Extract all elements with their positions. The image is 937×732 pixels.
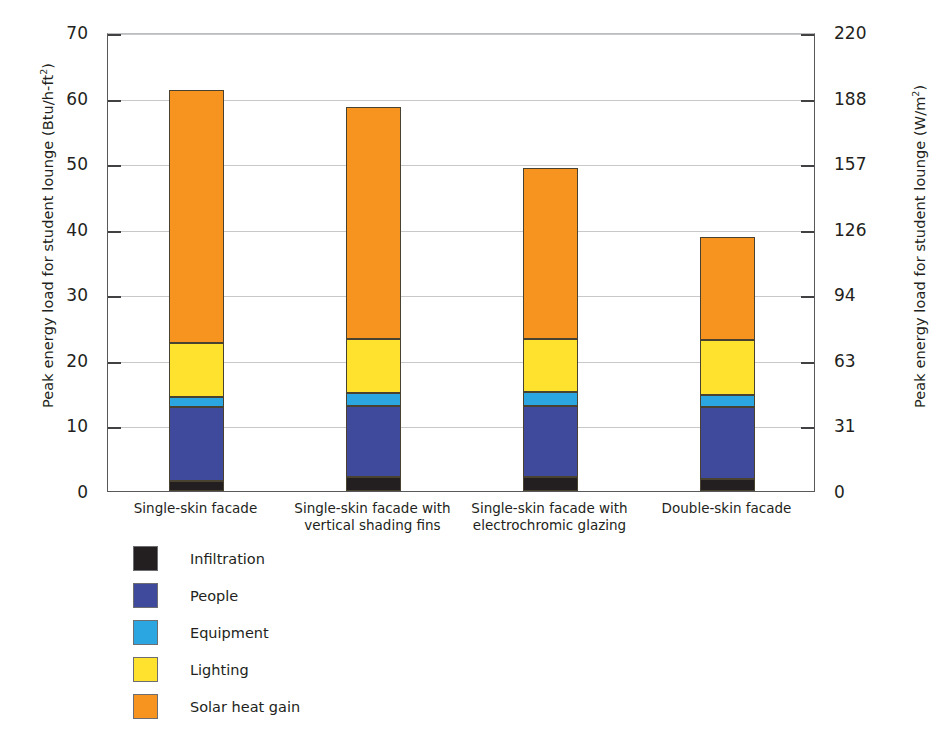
y-tick-label-left: 60 — [66, 91, 88, 108]
y-tick-label-right: 188 — [834, 91, 866, 108]
y-tick-label-right: 63 — [834, 353, 856, 370]
bar-segment-equipment[interactable] — [346, 393, 401, 405]
x-category-label-line: Single-skin facade — [107, 500, 284, 517]
legend-swatch-icon — [133, 694, 158, 719]
y-tick-label-left: 10 — [66, 418, 88, 435]
legend-item[interactable]: Lighting — [133, 651, 300, 688]
y-tick-label-left: 30 — [66, 287, 88, 304]
bar-segment-solar-heat-gain[interactable] — [169, 90, 224, 342]
plot-area: 010203040506070 0316394126157188220 — [107, 33, 815, 492]
y-axis-title-left-sup: 2 — [38, 69, 49, 75]
bar-segment-lighting[interactable] — [700, 340, 755, 395]
x-category-label-line: Double-skin facade — [638, 500, 815, 517]
bar-segment-infiltration[interactable] — [169, 481, 224, 491]
stacked-bar[interactable] — [523, 168, 578, 491]
y-axis-title-left: Peak energy load for student lounge (Btu… — [40, 63, 56, 408]
bar-group[interactable] — [700, 34, 755, 491]
x-category-label-line: vertical shading fins — [284, 517, 461, 534]
stacked-bar[interactable] — [700, 237, 755, 491]
legend-label: People — [190, 588, 238, 604]
legend-item[interactable]: Equipment — [133, 614, 300, 651]
stacked-bar[interactable] — [346, 107, 401, 491]
legend-swatch-icon — [133, 546, 158, 571]
y-tick-label-left: 40 — [66, 222, 88, 239]
legend-label: Solar heat gain — [190, 699, 300, 715]
y-tick-label-right: 94 — [834, 287, 856, 304]
bar-group[interactable] — [346, 34, 401, 491]
x-category-label-line: Single-skin facade with — [284, 500, 461, 517]
bar-segment-solar-heat-gain[interactable] — [700, 237, 755, 340]
bar-segment-solar-heat-gain[interactable] — [346, 107, 401, 338]
bar-segment-infiltration[interactable] — [346, 477, 401, 491]
y-axis-title-right: Peak energy load for student lounge (W/m… — [912, 85, 928, 408]
bar-series-container — [108, 34, 814, 491]
x-category-label: Single-skin facade — [107, 500, 284, 517]
bar-segment-infiltration[interactable] — [523, 477, 578, 491]
legend-label: Infiltration — [190, 551, 265, 567]
bar-segment-equipment[interactable] — [700, 395, 755, 407]
y-axis-title-right-sup: 2 — [910, 90, 921, 96]
bar-segment-solar-heat-gain[interactable] — [523, 168, 578, 338]
legend-label: Lighting — [190, 662, 249, 678]
y-tick-label-left: 50 — [66, 156, 88, 173]
bar-segment-lighting[interactable] — [346, 339, 401, 393]
bar-segment-equipment[interactable] — [523, 392, 578, 406]
y-tick-label-right: 157 — [834, 156, 866, 173]
y-tick-label-left: 0 — [77, 484, 88, 501]
x-category-label-line: electrochromic glazing — [461, 517, 638, 534]
legend-item[interactable]: Solar heat gain — [133, 688, 300, 725]
bar-segment-people[interactable] — [523, 406, 578, 477]
bar-segment-lighting[interactable] — [169, 343, 224, 397]
y-tick-label-right: 126 — [834, 222, 866, 239]
bar-segment-people[interactable] — [346, 406, 401, 477]
y-axis-title-right-text: Peak energy load for student lounge (W/m — [912, 97, 928, 408]
legend-label: Equipment — [190, 625, 269, 641]
y-tick-label-right: 0 — [834, 484, 845, 501]
legend-item[interactable]: Infiltration — [133, 540, 300, 577]
legend-swatch-icon — [133, 620, 158, 645]
bar-segment-equipment[interactable] — [169, 397, 224, 407]
y-axis-title-left-text: Peak energy load for student lounge (Btu… — [40, 75, 56, 408]
chart-figure: Peak energy load for student lounge (Btu… — [0, 0, 937, 732]
y-tick-label-right: 220 — [834, 25, 866, 42]
y-tick-label-left: 20 — [66, 353, 88, 370]
bar-group[interactable] — [169, 34, 224, 491]
bar-segment-infiltration[interactable] — [700, 479, 755, 491]
legend-item[interactable]: People — [133, 577, 300, 614]
x-category-label: Double-skin facade — [638, 500, 815, 517]
bar-segment-people[interactable] — [169, 407, 224, 481]
x-category-label-line: Single-skin facade with — [461, 500, 638, 517]
y-tick-label-left: 70 — [66, 25, 88, 42]
legend-swatch-icon — [133, 657, 158, 682]
bar-segment-lighting[interactable] — [523, 339, 578, 392]
y-axis-title-left-tail: ) — [40, 63, 56, 69]
chart-legend: InfiltrationPeopleEquipmentLightingSolar… — [133, 540, 300, 725]
y-axis-title-right-tail: ) — [912, 85, 928, 91]
bar-group[interactable] — [523, 34, 578, 491]
bar-segment-people[interactable] — [700, 407, 755, 479]
legend-swatch-icon — [133, 583, 158, 608]
y-tick-label-right: 31 — [834, 418, 856, 435]
stacked-bar[interactable] — [169, 90, 224, 491]
x-category-label: Single-skin facade withelectrochromic gl… — [461, 500, 638, 534]
x-category-label: Single-skin facade withvertical shading … — [284, 500, 461, 534]
